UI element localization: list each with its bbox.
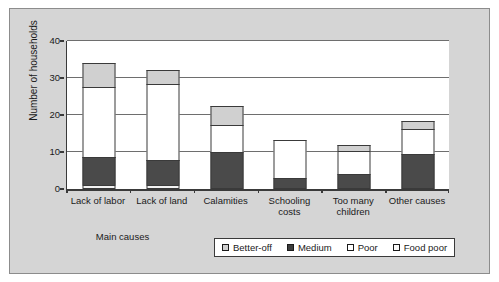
- x-tick-mark: [321, 189, 323, 193]
- x-tick-label: Too manychildren: [321, 195, 385, 217]
- bar-segment-poor[interactable]: [402, 129, 435, 155]
- x-tick-label-line: Calamities: [194, 195, 258, 206]
- stacked-bar[interactable]: [210, 106, 243, 189]
- chart-panel: 010203040 Number of households Lack of l…: [9, 8, 490, 274]
- plot-area-wrapper: [66, 41, 449, 189]
- bar-segment-medium[interactable]: [338, 174, 371, 189]
- x-tick-label-line: Lack of labor: [66, 195, 130, 206]
- x-axis-ticks: [66, 189, 449, 194]
- legend-swatch-poor: [347, 244, 354, 251]
- y-axis-title: Number of households: [28, 0, 39, 146]
- x-tick-label: Lack of land: [130, 195, 194, 206]
- bar-segment-medium[interactable]: [274, 178, 307, 189]
- bar-slot: [67, 41, 131, 189]
- bar-segment-poor[interactable]: [338, 151, 371, 175]
- bar-segment-poor[interactable]: [274, 140, 307, 179]
- legend-entry[interactable]: Medium: [287, 243, 332, 253]
- stacked-bar[interactable]: [402, 121, 435, 189]
- legend-swatch-medium: [287, 244, 294, 251]
- bar-segment-better-off[interactable]: [146, 70, 179, 85]
- legend-swatch-food-poor: [393, 244, 400, 251]
- legend-entry[interactable]: Food poor: [393, 243, 447, 253]
- x-axis-labels: Lack of laborLack of landCalamitiesSchoo…: [66, 195, 449, 225]
- y-tick-mark: [60, 188, 64, 190]
- x-tick-label: Lack of labor: [66, 195, 130, 206]
- y-tick-mark: [60, 114, 64, 116]
- x-tick-label-line: children: [321, 206, 385, 217]
- y-tick-label: 0: [32, 184, 60, 194]
- x-tick-mark: [448, 189, 450, 193]
- x-tick-label: Schoolingcosts: [258, 195, 322, 217]
- plot-area: [66, 41, 449, 189]
- stacked-bar[interactable]: [274, 140, 307, 189]
- x-tick-mark: [385, 189, 387, 193]
- legend-label: Better-off: [233, 243, 272, 253]
- x-tick-label-line: Too many: [321, 195, 385, 206]
- stacked-bar[interactable]: [146, 70, 179, 189]
- bar-slot: [322, 41, 386, 189]
- bar-segment-poor[interactable]: [146, 84, 179, 162]
- stacked-bar[interactable]: [338, 145, 371, 189]
- legend-label: Food poor: [404, 243, 447, 253]
- bar-segment-poor[interactable]: [210, 125, 243, 153]
- y-tick-label: 10: [32, 147, 60, 157]
- x-tick-label: Other causes: [385, 195, 449, 206]
- stacked-bar[interactable]: [82, 63, 115, 189]
- x-tick-mark: [194, 189, 196, 193]
- x-tick-mark: [66, 189, 68, 193]
- bar-segment-better-off[interactable]: [82, 63, 115, 89]
- x-axis-title: Main causes: [65, 231, 180, 242]
- x-tick-label-line: Schooling: [258, 195, 322, 206]
- legend-swatch-better-off: [222, 244, 229, 251]
- bar-segment-medium[interactable]: [210, 152, 243, 189]
- bar-slot: [131, 41, 195, 189]
- bar-slot: [259, 41, 323, 189]
- x-tick-label-line: Other causes: [385, 195, 449, 206]
- bar-segment-medium[interactable]: [402, 154, 435, 189]
- bar-segment-poor[interactable]: [82, 87, 115, 157]
- x-tick-label-line: Lack of land: [130, 195, 194, 206]
- bar-segment-medium[interactable]: [146, 160, 179, 186]
- bar-segment-better-off[interactable]: [210, 106, 243, 126]
- bar-slot: [195, 41, 259, 189]
- chart-figure: 010203040 Number of households Lack of l…: [0, 0, 499, 282]
- x-tick-label: Calamities: [194, 195, 258, 206]
- x-tick-mark: [258, 189, 260, 193]
- bar-slot: [386, 41, 450, 189]
- x-tick-label-line: costs: [258, 206, 322, 217]
- legend-entry[interactable]: Better-off: [222, 243, 272, 253]
- y-tick-mark: [60, 40, 64, 42]
- y-tick-mark: [60, 151, 64, 153]
- y-tick-mark: [60, 77, 64, 79]
- legend-label: Medium: [298, 243, 332, 253]
- bar-segment-medium[interactable]: [82, 157, 115, 187]
- x-tick-mark: [130, 189, 132, 193]
- legend-entry[interactable]: Poor: [347, 243, 378, 253]
- legend-label: Poor: [358, 243, 378, 253]
- chart-legend: Better-offMediumPoorFood poor: [214, 238, 455, 257]
